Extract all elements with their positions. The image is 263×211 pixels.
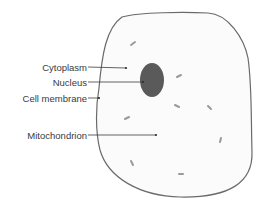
label-nucleus: Nucleus [53,77,88,88]
mitochondrion-shape [220,138,221,142]
label-cytoplasm: Cytoplasm [42,62,87,73]
pointer-dot-cytoplasm [125,67,127,69]
pointer-dot-nucleus [142,81,144,83]
label-mitochondrion: Mitochondrion [27,130,87,141]
label-cell-membrane: Cell membrane [23,93,87,104]
pointer-dot-cell-membrane [98,97,100,99]
pointer-dot-mitochondrion [155,134,157,136]
nucleus-shape [140,63,164,97]
cell-diagram: CytoplasmNucleusCell membraneMitochondri… [0,0,263,211]
